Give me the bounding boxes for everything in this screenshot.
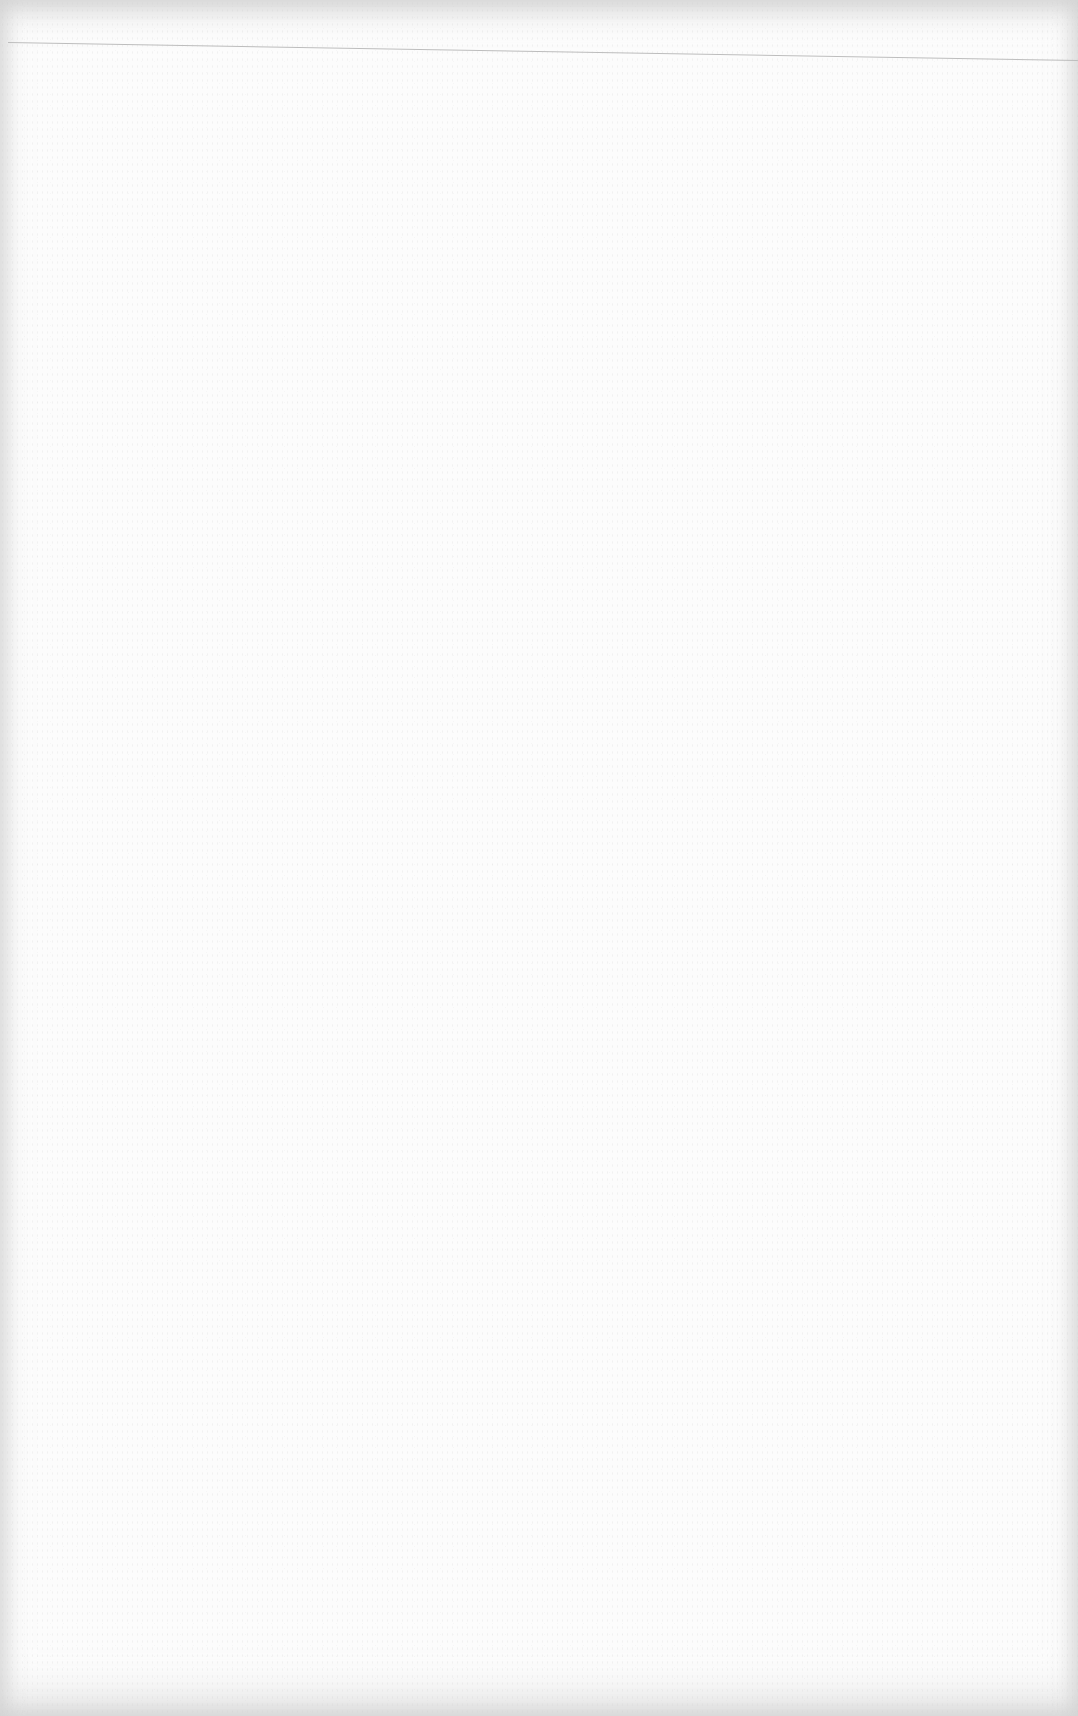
blank-page	[0, 0, 1078, 1716]
horizontal-rule	[8, 42, 1078, 61]
scan-edge-shading	[0, 0, 1078, 1716]
paper-texture	[0, 0, 1078, 1716]
